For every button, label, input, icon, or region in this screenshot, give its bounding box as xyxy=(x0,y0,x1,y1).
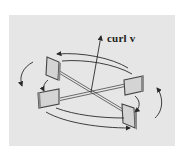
curl-v-label: curl v xyxy=(107,32,135,44)
curl-diagram xyxy=(0,0,183,156)
curl-axis-arrow xyxy=(91,36,101,92)
paddle-top-left xyxy=(46,57,61,81)
paddle-right xyxy=(124,76,143,95)
paddle-bottom-left xyxy=(38,89,59,108)
paddle-rods xyxy=(58,70,126,114)
paddle-bottom-right xyxy=(122,104,137,130)
